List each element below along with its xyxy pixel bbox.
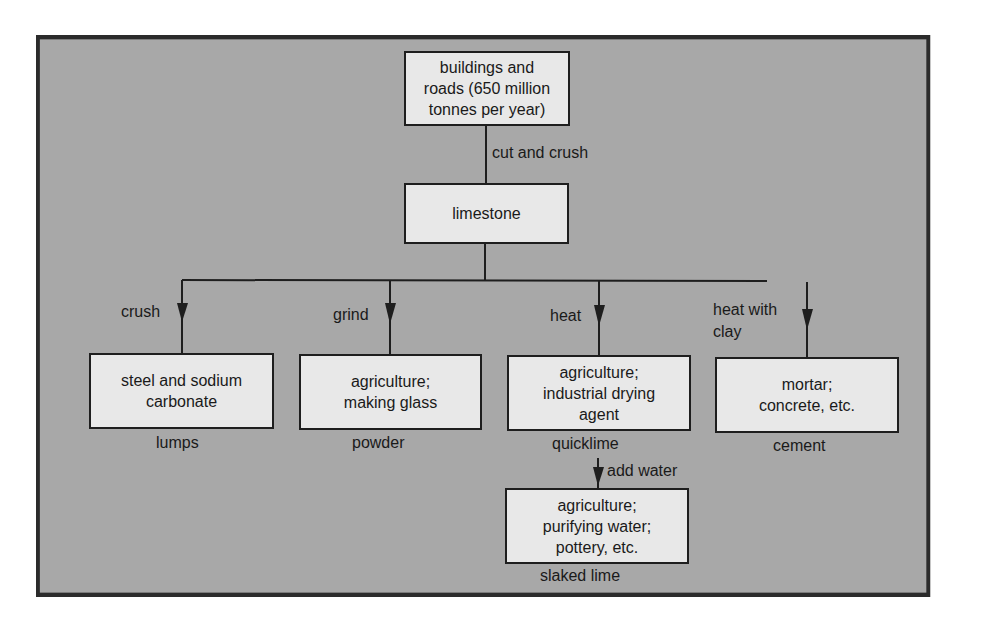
product-label-powder: powder bbox=[352, 433, 404, 453]
node-buildings-and-roads: buildings and roads (650 million tonnes … bbox=[404, 51, 570, 126]
edge-label-heat-with-clay: heat with clay bbox=[713, 299, 777, 343]
product-label-quicklime: quicklime bbox=[552, 434, 619, 454]
edge-label-crush: crush bbox=[121, 302, 160, 322]
edge-label-cut-and-crush: cut and crush bbox=[492, 143, 588, 163]
node-agriculture-drying: agriculture; industrial drying agent bbox=[507, 355, 691, 431]
product-label-cement: cement bbox=[773, 436, 825, 456]
node-steel-sodium-carbonate: steel and sodium carbonate bbox=[89, 353, 274, 429]
edge-label-heat: heat bbox=[550, 306, 581, 326]
node-mortar-concrete: mortar; concrete, etc. bbox=[715, 357, 899, 433]
product-label-lumps: lumps bbox=[156, 433, 199, 453]
edge-label-grind: grind bbox=[333, 305, 369, 325]
node-agriculture-glass: agriculture; making glass bbox=[299, 354, 482, 430]
edge-label-add-water: add water bbox=[607, 461, 677, 481]
node-limestone: limestone bbox=[404, 183, 569, 244]
product-label-slaked-lime: slaked lime bbox=[540, 566, 620, 586]
node-agriculture-purifying-water: agriculture; purifying water; pottery, e… bbox=[505, 488, 689, 564]
